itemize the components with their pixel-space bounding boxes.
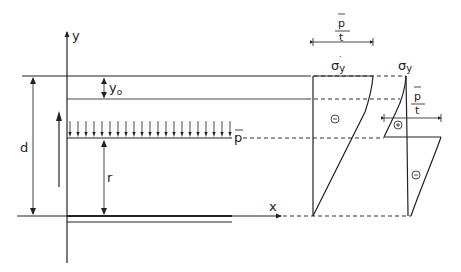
stress-diagram: y yo d p r x σy′ p t σy p xyxy=(0,0,461,272)
load-arrow-head-icon xyxy=(100,132,103,137)
sigma-y-label: σy xyxy=(398,58,412,74)
load-arrow-head-icon xyxy=(164,132,167,137)
load-arrow-head-icon xyxy=(140,132,143,137)
fraction-2-top: p xyxy=(414,90,421,103)
offset-label: yo xyxy=(109,80,123,97)
load-arrow-head-icon xyxy=(172,132,175,137)
load-arrow-head-icon xyxy=(180,132,183,137)
load-arrow-head-icon xyxy=(124,132,127,137)
sigma-y-compression-line xyxy=(411,137,441,216)
load-arrow-head-icon xyxy=(68,132,71,137)
sigma-y-prime-label: σy′ xyxy=(331,55,345,74)
load-arrow-head-icon xyxy=(92,132,95,137)
depth-label: d xyxy=(20,140,28,155)
fraction-2-bottom: t xyxy=(415,104,420,117)
load-arrow-head-icon xyxy=(204,132,207,137)
load-arrow-head-icon xyxy=(228,132,231,137)
sigma-y-prime-curve xyxy=(313,76,373,216)
sigma-y-upper-vertical xyxy=(406,76,407,138)
x-axis-label: x xyxy=(269,199,277,214)
load-arrow-head-icon xyxy=(212,132,215,137)
load-arrow-head-icon xyxy=(108,132,111,137)
radius-label: r xyxy=(107,170,113,185)
upward-arrow-head-icon xyxy=(56,111,62,121)
load-arrow-head-icon xyxy=(220,132,223,137)
load-arrow-head-icon xyxy=(132,132,135,137)
sigma-y-lower-vertical xyxy=(407,138,408,216)
load-label: p xyxy=(234,130,242,145)
load-arrow-head-icon xyxy=(116,132,119,137)
load-arrow-head-icon xyxy=(188,132,191,137)
load-arrow-head-icon xyxy=(156,132,159,137)
load-arrow-head-icon xyxy=(76,132,79,137)
fraction-1-top: p xyxy=(338,17,345,30)
distributed-load-arrows xyxy=(68,121,231,137)
load-arrow-head-icon xyxy=(148,132,151,137)
load-arrow-head-icon xyxy=(196,132,199,137)
load-arrow-head-icon xyxy=(84,132,87,137)
y-axis-label: y xyxy=(72,28,80,43)
